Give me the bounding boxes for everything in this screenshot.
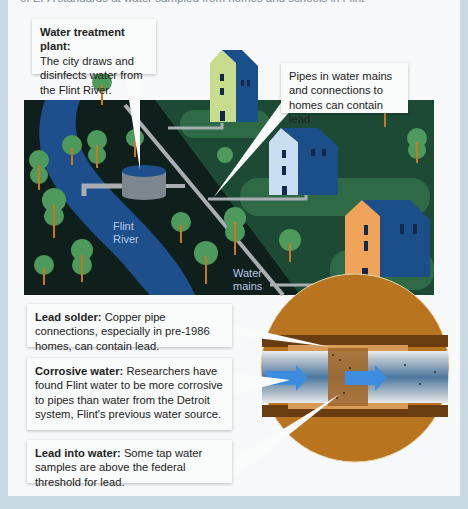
flint-river-label: FlintRiver	[113, 220, 139, 246]
callout-pipes-lead: Pipes in water mains and connections to …	[281, 63, 408, 113]
house-lightblue	[269, 128, 338, 195]
water-mains-label: Watermains	[233, 267, 262, 293]
callout-lead-solder: Lead solder: Copper pipe connections, es…	[27, 304, 232, 347]
treatment-plant-tank	[122, 165, 166, 200]
house-orange	[345, 200, 430, 278]
house-yellow	[210, 50, 258, 122]
callout-water-treatment-plant: Water treatment plant:The city draws and…	[32, 19, 156, 74]
callout-corrosive-water: Corrosive water: Researchers have found …	[27, 358, 232, 430]
callout-lead-into-water: Lead into water: Some tap water samples …	[27, 440, 232, 483]
